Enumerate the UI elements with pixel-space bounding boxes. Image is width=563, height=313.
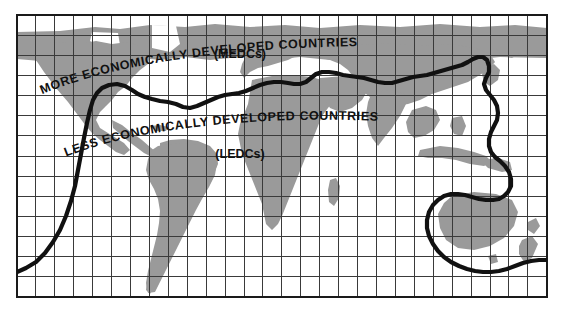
world-map-svg: MORE ECONOMICALLY DEVELOPED COUNTRIES LE… bbox=[0, 0, 563, 313]
world-map-figure: MORE ECONOMICALLY DEVELOPED COUNTRIES LE… bbox=[0, 0, 563, 313]
label-medcs-abbr: (MEDCs) bbox=[214, 47, 266, 61]
label-ledcs-abbr: (LEDCs) bbox=[215, 147, 264, 161]
figure-page: MORE ECONOMICALLY DEVELOPED COUNTRIES LE… bbox=[0, 0, 563, 313]
